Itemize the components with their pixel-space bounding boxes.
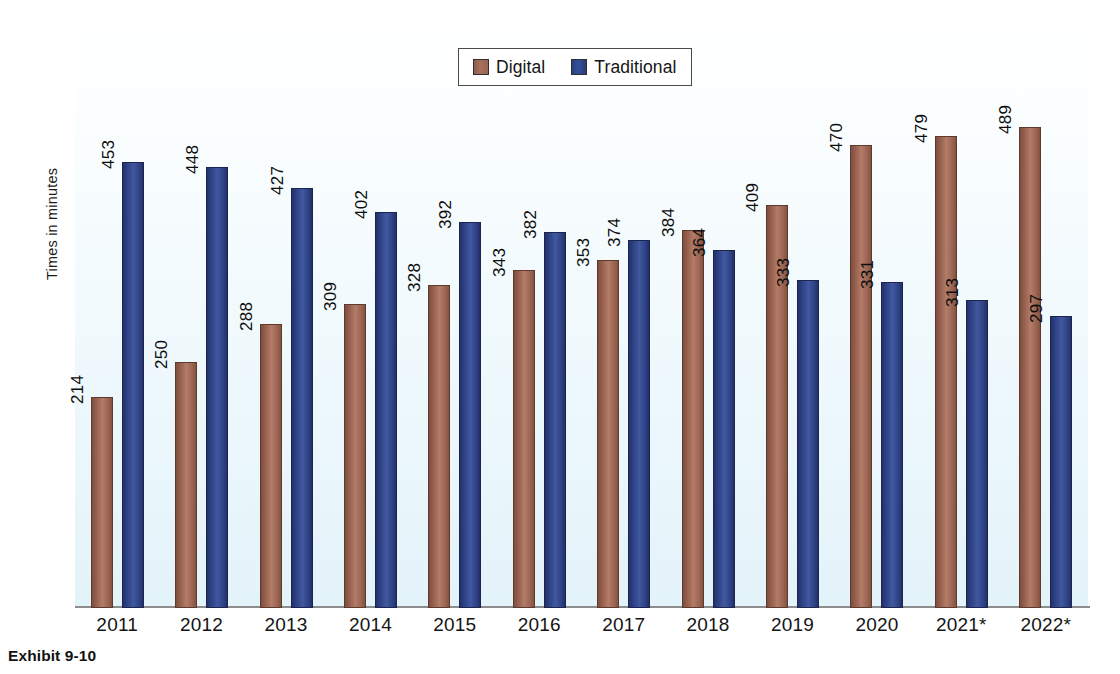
bar-pair: 489297 xyxy=(1004,8,1088,608)
bar-value-label: 333 xyxy=(788,252,808,281)
bar-digital: 343 xyxy=(513,270,535,608)
x-tick-label: 2012 xyxy=(159,614,243,636)
bar-group: 328392 xyxy=(413,8,497,608)
bar-traditional: 448 xyxy=(206,167,228,608)
bar-value-label: 374 xyxy=(619,212,639,241)
bar-group: 470331 xyxy=(835,8,919,608)
bar-digital: 328 xyxy=(428,285,450,608)
x-tick-label: 2022* xyxy=(1004,614,1088,636)
bar-digital-wrapper: 479 xyxy=(935,136,957,608)
x-tick-label: 2018 xyxy=(666,614,750,636)
bar-traditional-wrapper: 402 xyxy=(375,212,397,608)
bar-value-label: 392 xyxy=(450,194,470,223)
bar-group: 250448 xyxy=(159,8,243,608)
x-tick-label: 2019 xyxy=(750,614,834,636)
bar-digital: 479 xyxy=(935,136,957,608)
bar-value-label: 489 xyxy=(1010,98,1030,127)
bar-value-label: 402 xyxy=(366,184,386,213)
bar-traditional-wrapper: 364 xyxy=(713,250,735,608)
x-tick-label: 2013 xyxy=(244,614,328,636)
x-tick-label: 2021* xyxy=(919,614,1003,636)
bar-group: 479313 xyxy=(919,8,1003,608)
bar-pair: 288427 xyxy=(244,8,328,608)
bar-digital-wrapper: 288 xyxy=(260,324,282,608)
bar-value-label: 313 xyxy=(957,272,977,301)
bar-traditional: 374 xyxy=(628,240,650,608)
bar-digital-wrapper: 384 xyxy=(682,230,704,608)
bar-group: 384364 xyxy=(666,8,750,608)
bar-traditional: 392 xyxy=(459,222,481,608)
bar-group: 353374 xyxy=(582,8,666,608)
x-tick-label: 2011 xyxy=(75,614,159,636)
legend-label: Traditional xyxy=(594,57,676,78)
bar-digital: 214 xyxy=(91,397,113,608)
bar-value-label: 409 xyxy=(757,177,777,206)
bar-traditional: 382 xyxy=(544,232,566,608)
bar-value-label: 448 xyxy=(197,139,217,168)
legend-label: Digital xyxy=(496,57,545,78)
bar-value-label: 384 xyxy=(673,202,693,231)
bar-group: 214453 xyxy=(75,8,159,608)
bar-traditional-wrapper: 333 xyxy=(797,280,819,608)
bar-value-label: 288 xyxy=(251,296,271,325)
bar-value-label: 214 xyxy=(82,369,102,398)
bar-traditional-wrapper: 331 xyxy=(881,282,903,608)
bar-value-label: 328 xyxy=(419,257,439,286)
bar-traditional-wrapper: 392 xyxy=(459,222,481,608)
bar-traditional-wrapper: 382 xyxy=(544,232,566,608)
bar-pair: 479313 xyxy=(919,8,1003,608)
bar-value-label: 479 xyxy=(926,108,946,137)
bar-pair: 470331 xyxy=(835,8,919,608)
bar-value-label: 382 xyxy=(535,204,555,233)
bar-traditional: 331 xyxy=(881,282,903,608)
bar-digital: 309 xyxy=(344,304,366,608)
bar-digital: 353 xyxy=(597,260,619,608)
bar-digital: 288 xyxy=(260,324,282,608)
bar-traditional: 453 xyxy=(122,162,144,608)
bar-digital: 489 xyxy=(1019,127,1041,608)
bar-value-label: 364 xyxy=(704,221,724,250)
bar-digital-wrapper: 328 xyxy=(428,285,450,608)
bar-value-label: 343 xyxy=(504,242,524,271)
bar-digital-wrapper: 309 xyxy=(344,304,366,608)
bar-digital: 250 xyxy=(175,362,197,608)
bar-pair: 214453 xyxy=(75,8,159,608)
legend-swatch-traditional-icon xyxy=(571,59,587,75)
bar-value-label: 427 xyxy=(282,159,302,188)
legend-entry-digital: Digital xyxy=(473,57,545,78)
bar-traditional-wrapper: 297 xyxy=(1050,316,1072,608)
bar-pair: 328392 xyxy=(413,8,497,608)
bar-value-label: 297 xyxy=(1041,287,1061,316)
bar-traditional-wrapper: 374 xyxy=(628,240,650,608)
legend-entry-traditional: Traditional xyxy=(571,57,676,78)
x-tick-label: 2020 xyxy=(835,614,919,636)
bar-pair: 384364 xyxy=(666,8,750,608)
x-tick-label: 2017 xyxy=(582,614,666,636)
bar-value-label: 309 xyxy=(335,276,355,305)
bar-digital-wrapper: 470 xyxy=(850,145,872,608)
figure-caption: Exhibit 9-10 xyxy=(8,647,96,665)
bar-value-label: 470 xyxy=(841,117,861,146)
bar-traditional: 402 xyxy=(375,212,397,608)
y-axis-title: Times in minutes xyxy=(44,60,60,280)
bar-group: 489297 xyxy=(1004,8,1088,608)
x-tick-label: 2014 xyxy=(328,614,412,636)
bar-traditional: 427 xyxy=(291,188,313,608)
bar-traditional-wrapper: 313 xyxy=(966,300,988,608)
bar-digital-wrapper: 353 xyxy=(597,260,619,608)
bar-digital-wrapper: 343 xyxy=(513,270,535,608)
x-tick-label: 2016 xyxy=(497,614,581,636)
bar-pair: 250448 xyxy=(159,8,243,608)
bar-traditional: 313 xyxy=(966,300,988,608)
bar-group: 409333 xyxy=(750,8,834,608)
chart-legend: DigitalTraditional xyxy=(458,48,692,86)
bar-pair: 353374 xyxy=(582,8,666,608)
legend-swatch-digital-icon xyxy=(473,59,489,75)
bar-traditional: 364 xyxy=(713,250,735,608)
bar-traditional-wrapper: 453 xyxy=(122,162,144,608)
bar-traditional: 297 xyxy=(1050,316,1072,608)
bar-pair: 409333 xyxy=(750,8,834,608)
bar-pair: 309402 xyxy=(328,8,412,608)
bar-digital: 384 xyxy=(682,230,704,608)
bar-traditional-wrapper: 448 xyxy=(206,167,228,608)
